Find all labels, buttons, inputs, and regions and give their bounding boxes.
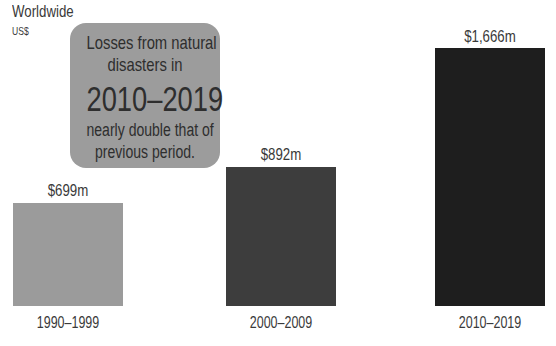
x-axis-label: 1990–1999 (13, 314, 123, 332)
callout-line-3: nearly double that of (70, 119, 220, 141)
x-axis-label-text: 1990–1999 (25, 314, 111, 332)
chart-title-text: Worldwide (12, 2, 74, 22)
bar-value-label: $699m (13, 181, 123, 201)
bar-value-text: $892m (238, 145, 324, 165)
x-axis-label-text: 2000–2009 (238, 314, 324, 332)
callout-line-2: disasters in (70, 54, 220, 76)
callout-line-3-text: nearly double that of (87, 119, 204, 141)
bar-value-text: $1,666m (447, 27, 533, 47)
x-axis-label: 2000–2009 (226, 314, 336, 332)
chart-title: Worldwide (12, 2, 91, 22)
annotation-callout: Losses from natural disasters in 2010–20… (70, 23, 220, 168)
callout-highlight: 2010–2019 (70, 80, 220, 118)
callout-line-1: Losses from natural (70, 32, 220, 54)
callout-line-1-text: Losses from natural (87, 32, 204, 54)
callout-highlight-text: 2010–2019 (87, 80, 204, 118)
chart-unit: US$ (12, 25, 33, 37)
bar-value-label: $1,666m (435, 27, 545, 47)
callout-line-4-text: previous period. (87, 141, 204, 163)
bar-value-label: $892m (226, 145, 336, 165)
callout-line-4: previous period. (70, 141, 220, 163)
bar-1990-1999 (13, 203, 123, 306)
x-axis-label: 2010–2019 (435, 314, 545, 332)
callout-line-2-text: disasters in (87, 54, 204, 76)
bar-value-text: $699m (25, 181, 111, 201)
chart-unit-text: US$ (12, 25, 29, 37)
bar-2000-2009 (226, 167, 336, 306)
x-axis-label-text: 2010–2019 (447, 314, 533, 332)
bar-2010-2019 (435, 48, 545, 306)
